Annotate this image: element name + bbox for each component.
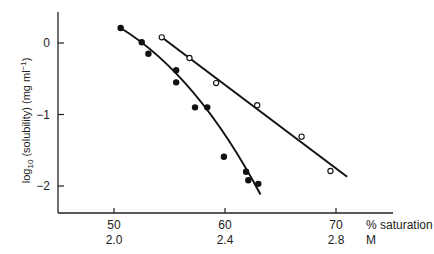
open-data-point bbox=[328, 168, 333, 173]
filled-data-point bbox=[192, 104, 198, 110]
x-tick-label-molar: 2.0 bbox=[106, 233, 123, 247]
x-unit-molar: M bbox=[366, 233, 376, 247]
filled-data-point bbox=[245, 177, 251, 183]
x-unit-saturation: % saturation bbox=[366, 218, 433, 232]
open-data-point bbox=[187, 55, 192, 60]
filled-data-point bbox=[243, 169, 249, 175]
x-tick-label: 70 bbox=[329, 218, 343, 232]
x-tick-label: 60 bbox=[218, 218, 232, 232]
filled-data-point bbox=[145, 51, 151, 57]
filled-data-point bbox=[204, 104, 210, 110]
x-tick-label-molar: 2.8 bbox=[328, 233, 345, 247]
y-tick-label: −1 bbox=[36, 108, 50, 122]
open-data-point bbox=[299, 134, 304, 139]
y-tick-label: −2 bbox=[36, 179, 50, 193]
x-tick-label: 50 bbox=[107, 218, 121, 232]
filled-data-point bbox=[221, 153, 227, 159]
filled-data-point bbox=[173, 79, 179, 85]
open-data-point bbox=[159, 35, 164, 40]
open-data-point bbox=[255, 103, 260, 108]
filled-data-point bbox=[139, 39, 145, 45]
filled-data-point bbox=[255, 181, 261, 187]
filled-series-fit-curve bbox=[121, 28, 261, 195]
fit-lines bbox=[121, 28, 347, 195]
open-data-point bbox=[214, 80, 219, 85]
axes: 0−1−2502.0602.4702.8% saturationM bbox=[36, 12, 432, 247]
y-tick-label: 0 bbox=[43, 36, 50, 50]
filled-data-point bbox=[173, 67, 179, 73]
filled-data-point bbox=[117, 25, 123, 31]
solubility-chart: 0−1−2502.0602.4702.8% saturationM bbox=[0, 0, 434, 254]
x-tick-label-molar: 2.4 bbox=[217, 233, 234, 247]
